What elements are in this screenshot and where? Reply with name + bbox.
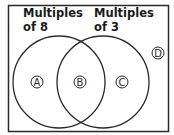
set-label-line2: of 8: [23, 20, 83, 34]
region-d-label: D: [154, 48, 162, 59]
set-label-line1: Multiples: [94, 6, 154, 20]
region-a-label: A: [34, 77, 41, 88]
set-label-line2: of 3: [94, 20, 154, 34]
region-b-label: B: [77, 77, 84, 88]
set-label-multiples-of-3: Multiples of 3: [94, 6, 154, 34]
multiples-of-8-circle: [13, 36, 105, 128]
set-label-multiples-of-8: Multiples of 8: [23, 6, 83, 34]
set-label-line1: Multiples: [23, 6, 83, 20]
multiples-of-3-circle: [57, 36, 149, 128]
region-c-label: C: [119, 77, 126, 88]
